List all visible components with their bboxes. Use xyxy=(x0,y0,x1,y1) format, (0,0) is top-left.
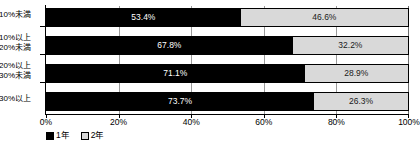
bar-segment-0-series2: 46.6% xyxy=(240,9,408,26)
bar-value-0-series2: 46.6% xyxy=(312,13,336,22)
bar-segment-0-series1: 53.4% xyxy=(47,9,240,26)
bar-stack-3: 73.7% 26.3% xyxy=(46,92,409,111)
x-axis-label-40: 40% xyxy=(183,117,200,128)
legend-label-series1: 1年 xyxy=(56,131,70,140)
bar-value-1-series2: 32.2% xyxy=(338,41,362,50)
bar-value-1-series1: 67.8% xyxy=(157,41,181,50)
x-axis-label-60: 60% xyxy=(255,117,272,128)
bar-value-2-series1: 71.1% xyxy=(163,69,187,78)
bar-row-0: 53.4% 46.6% xyxy=(46,8,409,27)
bar-value-3-series2: 26.3% xyxy=(349,97,373,106)
plot-area: 53.4% 46.6% 67.8% 32.2% xyxy=(46,6,409,114)
bar-row-1: 67.8% 32.2% xyxy=(46,36,409,55)
legend-label-series2: 2年 xyxy=(91,131,105,140)
bar-row-3: 73.7% 26.3% xyxy=(46,92,409,111)
bar-stack-1: 67.8% 32.2% xyxy=(46,36,409,55)
x-axis-label-80: 80% xyxy=(328,117,345,128)
bar-segment-1-series2: 32.2% xyxy=(292,37,408,54)
bar-segment-3-series1: 73.7% xyxy=(47,93,313,110)
category-label-1: 10%以上 20%未満 xyxy=(0,33,41,52)
legend-swatch-icon-series1 xyxy=(46,132,54,140)
category-label-0: 10%未満 xyxy=(0,10,41,20)
bar-stack-2: 71.1% 28.9% xyxy=(46,64,409,83)
x-axis-tick-labels: 0% 20% 40% 60% 80% 100% xyxy=(46,117,409,129)
x-axis-label-0: 0% xyxy=(40,117,52,128)
category-label-2: 20%以上 30%未満 xyxy=(0,61,41,80)
category-label-3: 30%以上 xyxy=(0,94,41,104)
legend-item-series2: 2年 xyxy=(81,131,105,140)
chart-legend: 1年 2年 xyxy=(46,130,104,141)
bar-rows: 53.4% 46.6% 67.8% 32.2% xyxy=(46,6,409,114)
legend-swatch-icon-series2 xyxy=(81,132,89,140)
bar-value-2-series2: 28.9% xyxy=(344,69,368,78)
bar-segment-3-series2: 26.3% xyxy=(313,93,408,110)
bar-row-2: 71.1% 28.9% xyxy=(46,64,409,83)
bar-stack-0: 53.4% 46.6% xyxy=(46,8,409,27)
x-axis-label-100: 100% xyxy=(398,117,420,128)
bar-value-0-series1: 53.4% xyxy=(131,13,155,22)
bar-segment-2-series2: 28.9% xyxy=(304,65,408,82)
legend-item-series1: 1年 xyxy=(46,131,70,140)
x-axis-label-20: 20% xyxy=(110,117,127,128)
bar-segment-1-series1: 67.8% xyxy=(47,37,292,54)
bar-value-3-series1: 73.7% xyxy=(168,97,192,106)
bar-segment-2-series1: 71.1% xyxy=(47,65,304,82)
category-axis-labels: 10%未満 10%以上 20%未満 20%以上 30%未満 30%以上 xyxy=(0,6,44,114)
